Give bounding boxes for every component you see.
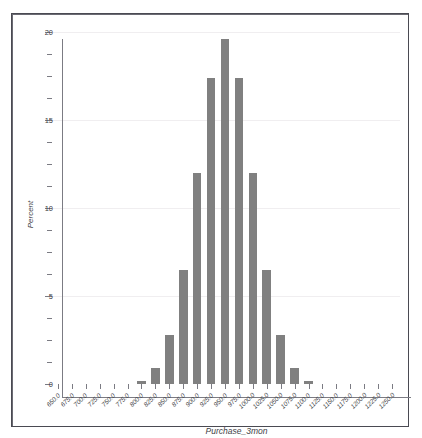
x-axis-title: Purchase_3mon bbox=[62, 426, 411, 436]
x-axis-tick bbox=[86, 384, 87, 389]
histogram-bars bbox=[12, 14, 422, 384]
x-axis-tick bbox=[211, 384, 212, 389]
x-axis-tick bbox=[295, 384, 296, 389]
x-axis-tick bbox=[169, 384, 170, 389]
histogram-bar bbox=[221, 39, 230, 384]
x-axis-tick-label: 725.0 bbox=[86, 392, 102, 408]
x-axis-tick bbox=[239, 384, 240, 389]
histogram-chart-frame: 05101520 650.0675.0700.0725.0750.0775.08… bbox=[11, 13, 409, 427]
x-axis-tick bbox=[114, 384, 115, 389]
histogram-bar bbox=[290, 368, 299, 384]
x-axis-tick-label: 700.0 bbox=[72, 392, 88, 408]
x-axis-tick bbox=[309, 384, 310, 389]
x-axis-tick bbox=[378, 384, 379, 389]
x-axis-tick-label: 950.0 bbox=[212, 392, 228, 408]
x-axis-tick bbox=[225, 384, 226, 389]
x-axis-tick-label: 800.0 bbox=[128, 392, 144, 408]
histogram-bar bbox=[235, 78, 244, 384]
histogram-bar bbox=[249, 173, 258, 384]
histogram-bar bbox=[276, 335, 285, 384]
histogram-bar bbox=[193, 173, 202, 384]
x-axis-tick-label: 925.0 bbox=[198, 392, 214, 408]
histogram-bar bbox=[165, 335, 174, 384]
x-axis-tick bbox=[336, 384, 337, 389]
x-axis-tick bbox=[183, 384, 184, 389]
x-axis-tick-label: 850.0 bbox=[156, 392, 172, 408]
x-axis-tick-label: 825.0 bbox=[142, 392, 158, 408]
x-axis-tick bbox=[197, 384, 198, 389]
x-axis-tick bbox=[100, 384, 101, 389]
x-axis-tick bbox=[392, 384, 393, 389]
x-axis-tick bbox=[350, 384, 351, 389]
x-axis-tick-label: 900.0 bbox=[184, 392, 200, 408]
screenshot-root: 05101520 650.0675.0700.0725.0750.0775.08… bbox=[0, 0, 422, 438]
histogram-bar bbox=[151, 368, 160, 384]
x-axis-tick-label: 875.0 bbox=[170, 392, 186, 408]
x-axis-tick bbox=[58, 384, 59, 389]
x-axis-tick bbox=[72, 384, 73, 389]
x-axis-tick bbox=[322, 384, 323, 389]
x-axis-tick bbox=[281, 384, 282, 389]
x-axis-tick-label: 750.0 bbox=[100, 392, 116, 408]
y-axis-title: Percent bbox=[26, 195, 35, 235]
x-axis-tick bbox=[128, 384, 129, 389]
x-axis-tick-label: 675.0 bbox=[59, 392, 75, 408]
histogram-bar bbox=[207, 78, 216, 384]
x-axis-tick bbox=[155, 384, 156, 389]
x-axis-tick bbox=[267, 384, 268, 389]
histogram-bar bbox=[179, 270, 188, 384]
histogram-bar bbox=[262, 270, 271, 384]
x-axis-tick bbox=[141, 384, 142, 389]
x-axis-tick bbox=[253, 384, 254, 389]
x-axis-tick-label: 775.0 bbox=[114, 392, 130, 408]
x-axis-tick bbox=[364, 384, 365, 389]
